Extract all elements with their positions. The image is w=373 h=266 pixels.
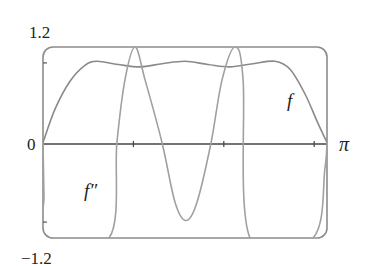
- x-origin-label: 0: [27, 136, 36, 153]
- series-f-annotation: f: [287, 91, 292, 110]
- series-f-line: [43, 61, 327, 142]
- x-end-label-pi: π: [339, 134, 349, 154]
- y-bottom-label: −1.2: [21, 250, 52, 266]
- series-fpp-line: [40, 47, 327, 253]
- y-top-label: 1.2: [29, 24, 50, 41]
- series-fpp-annotation: f″: [84, 181, 97, 200]
- plot-frame: [43, 47, 327, 238]
- chart-canvas: [0, 0, 373, 266]
